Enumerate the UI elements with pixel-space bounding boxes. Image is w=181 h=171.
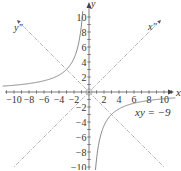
x-rotated-axis-tick (44, 135, 46, 137)
x-rotated-axis-label: x″ (147, 21, 157, 32)
x-rotated-axis-tick (49, 130, 51, 132)
y-tick-label: 8 (82, 27, 87, 38)
y-rotated-axis-tick (40, 43, 42, 45)
hyperbola-plot: −10−8−6−4−2246810−10−8−6−4−2246810 x y x… (0, 0, 181, 170)
y-rotated-axis-tick (116, 119, 118, 121)
y-rotated-axis-label: y″ (13, 22, 23, 33)
y-rotated-axis-tick (57, 60, 59, 62)
x-tick-label: 4 (117, 94, 122, 105)
x-rotated-axis-tick (17, 162, 19, 164)
y-tick-label: −10 (71, 162, 87, 171)
y-rotated-axis-tick (159, 162, 161, 164)
y-rotated-axis-tick (154, 157, 156, 159)
x-rotated-axis-tick (38, 141, 40, 143)
y-rotated-axis-tick (84, 87, 86, 89)
y-rotated-axis-tick (121, 124, 123, 126)
x-rotated-axis-tick (92, 87, 94, 89)
y-tick-label: 6 (82, 42, 87, 53)
plot-canvas: −10−8−6−4−2246810−10−8−6−4−2246810 x y x… (0, 0, 181, 170)
x-rotated-axis-tick (33, 146, 35, 148)
x-rotated-axis-tick (141, 38, 143, 40)
x-rotated-axis-tick (130, 49, 132, 51)
x-rotated-axis-tick (27, 151, 29, 153)
y-rotated-axis-tick (35, 38, 37, 40)
y-tick-label: −2 (76, 102, 87, 113)
y-rotated-axis-tick (143, 146, 145, 148)
y-rotated-axis-tick (62, 65, 64, 67)
x-tick-label: 8 (147, 94, 152, 105)
x-tick-label: −6 (39, 94, 50, 105)
x-rotated-axis-tick (98, 81, 100, 83)
y-rotated-axis-tick (73, 76, 75, 78)
x-rotated-axis-tick (81, 97, 83, 99)
y-rotated-axis-tick (78, 81, 80, 83)
x-rotated-axis-tick (60, 119, 62, 121)
y-rotated-axis-tick (132, 135, 134, 137)
y-tick-label: −6 (76, 132, 87, 143)
y-rotated-axis-tick (94, 97, 96, 99)
y-rotated-axis-tick (67, 70, 69, 72)
x-rotated-axis-tick (125, 54, 127, 56)
y-rotated-axis-tick (148, 151, 150, 153)
x-rotated-axis-tick (103, 76, 105, 78)
x-rotated-axis-tick (119, 60, 121, 62)
x-tick-label: 2 (102, 94, 107, 105)
x-rotated-axis-tick (146, 33, 148, 35)
y-rotated-axis-tick (105, 108, 107, 110)
equation-label: xy = −9 (134, 106, 171, 118)
x-axis-label: x (175, 86, 181, 98)
x-rotated-axis-tick (135, 43, 137, 45)
y-tick-label: 4 (82, 57, 87, 68)
y-rotated-axis-tick (51, 54, 53, 56)
x-rotated-axis-tick (114, 65, 116, 67)
y-rotated-axis-tick (24, 27, 26, 29)
x-rotated-axis-tick (65, 114, 67, 116)
y-axis-label: y (90, 0, 96, 9)
y-tick-label: −8 (76, 147, 87, 158)
x-tick-label: −10 (6, 94, 22, 105)
y-rotated-axis-tick (138, 141, 140, 143)
x-rotated-axis-tick (108, 70, 110, 72)
x-rotated-axis-tick (71, 108, 73, 110)
x-rotated-axis-tick (54, 124, 56, 126)
x-tick-label: −4 (54, 94, 65, 105)
x-rotated-axis-tick (22, 157, 24, 159)
y-tick-label: 2 (82, 72, 87, 83)
x-tick-label: −8 (24, 94, 35, 105)
y-tick-label: −4 (76, 117, 87, 128)
y-rotated-axis-tick (30, 33, 32, 35)
y-rotated-axis-tick (46, 49, 48, 51)
y-rotated-axis-tick (127, 130, 129, 132)
